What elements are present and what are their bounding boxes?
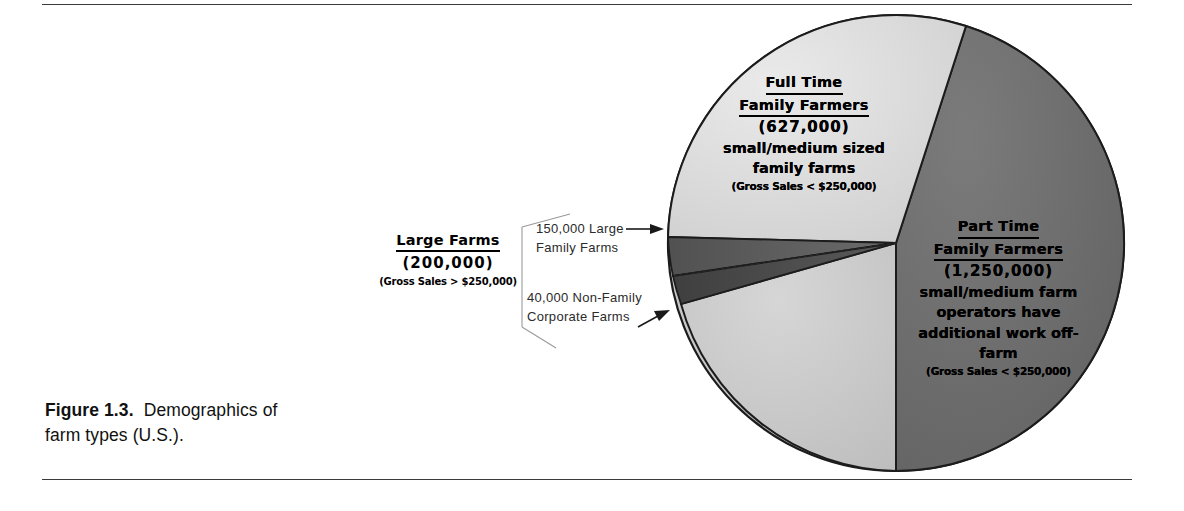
label-large-farms: Large Farms (200,000) (Gross Sales > $25… [378, 230, 518, 289]
callout-large-family-farms: 150,000 Large Family Farms [536, 219, 646, 257]
part-time-desc-line3: additional work off- [906, 323, 1091, 344]
full-time-title-line2: Family Farmers [739, 95, 868, 118]
full-time-desc-line2: family farms [700, 158, 908, 179]
figure-caption-line2: farm types (U.S.). [45, 425, 184, 445]
figure-label: Figure 1.3. [45, 400, 134, 420]
part-time-title-line2: Family Farmers [934, 239, 1063, 262]
callout-large-line2: Family Farms [536, 238, 646, 257]
part-time-note: (Gross Sales < $250,000) [906, 364, 1091, 379]
callout-corporate-line2: Corporate Farms [527, 307, 652, 326]
figure-caption: Figure 1.3.Demographics of farm types (U… [45, 398, 375, 448]
large-farms-note: (Gross Sales > $250,000) [378, 274, 518, 289]
full-time-desc-line1: small/medium sized [700, 138, 908, 159]
callout-large-line1: 150,000 Large [536, 219, 646, 238]
large-farms-title: Large Farms [396, 230, 499, 252]
full-time-title-line1: Full Time [766, 72, 843, 95]
part-time-desc-line1: small/medium farm [906, 282, 1091, 303]
label-part-time-family-farmers: Part Time Family Farmers (1,250,000) sma… [906, 216, 1091, 379]
label-full-time-family-farmers: Full Time Family Farmers (627,000) small… [700, 72, 908, 194]
top-rule [42, 4, 1132, 5]
bottom-rule [42, 479, 1132, 480]
part-time-desc-line2: operators have [906, 302, 1091, 323]
full-time-note: (Gross Sales < $250,000) [700, 179, 908, 194]
large-farms-count: (200,000) [378, 252, 518, 274]
part-time-count: (1,250,000) [906, 261, 1091, 282]
callout-non-family-corporate-farms: 40,000 Non-Family Corporate Farms [527, 288, 652, 326]
callout-corporate-line1: 40,000 Non-Family [527, 288, 652, 307]
part-time-desc-line4: farm [906, 343, 1091, 364]
part-time-title-line1: Part Time [958, 216, 1040, 239]
figure-caption-line1: Demographics of [144, 400, 278, 420]
figure-page: Full Time Family Farmers (627,000) small… [0, 0, 1184, 511]
full-time-count: (627,000) [700, 117, 908, 138]
